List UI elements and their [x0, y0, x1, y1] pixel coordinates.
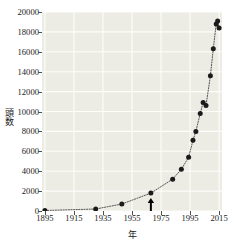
- x-axis-tick-mark: [103, 211, 104, 215]
- y-axis-tick-mark: [38, 52, 42, 53]
- y-axis-tick-mark: [38, 131, 42, 132]
- y-axis-tick-mark: [38, 32, 42, 33]
- x-axis-tick-labels: 1895191519351955197519952015: [0, 0, 236, 246]
- y-axis-tick-mark: [38, 151, 42, 152]
- x-axis-tick-label: 2015: [199, 213, 236, 223]
- x-axis-tick-mark: [219, 211, 220, 215]
- y-axis-tick-mark: [38, 171, 42, 172]
- x-axis-tick-mark: [132, 211, 133, 215]
- y-axis-tick-mark: [38, 191, 42, 192]
- x-axis-tick-mark: [161, 211, 162, 215]
- x-axis-tick-mark: [45, 211, 46, 215]
- y-axis-tick-mark: [38, 92, 42, 93]
- y-axis-tick-mark: [38, 211, 42, 212]
- x-axis-tick-mark: [74, 211, 75, 215]
- y-axis-tick-mark: [38, 112, 42, 113]
- x-axis-tick-mark: [190, 211, 191, 215]
- x-axis-title: 年: [42, 228, 222, 241]
- y-axis-tick-mark: [38, 72, 42, 73]
- y-axis-tick-mark: [38, 12, 42, 13]
- chart-figure: 頭数 0200040006000800010000120001400016000…: [0, 0, 236, 246]
